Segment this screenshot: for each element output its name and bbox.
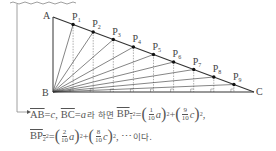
point-dot: [192, 68, 195, 71]
point-dot: [92, 30, 95, 33]
explanation-line-1: AB = c , BC = a 라 하면 BP12 = (110a)2 + (9…: [30, 106, 205, 122]
vertex-label-b: B: [42, 88, 49, 98]
segment-bp: [53, 85, 234, 93]
korean-text: 라 하면: [87, 108, 114, 120]
fraction: 210: [61, 129, 68, 144]
point-label-p6: P6: [173, 49, 182, 60]
fraction: 810: [95, 129, 102, 144]
vertex-label-c: C: [256, 87, 263, 97]
point-label-p1: P1: [72, 12, 81, 23]
point-label-p3: P3: [112, 27, 121, 38]
point-label-p4: P4: [132, 34, 141, 45]
var-a: a: [81, 109, 86, 120]
point-dot: [232, 83, 235, 86]
point-dot: [212, 75, 215, 78]
point-dot: [152, 53, 155, 56]
point-label-p8: P8: [213, 64, 222, 75]
point-dot: [71, 23, 74, 26]
point-label-p9: P9: [233, 72, 242, 83]
leader-line: [17, 4, 27, 112]
segment-bp: [53, 25, 73, 93]
segment-bp2: BP2: [30, 130, 46, 142]
segment-bp: [53, 55, 154, 93]
fraction: 110: [148, 107, 155, 122]
wavy-border: [10, 2, 76, 4]
point-dot: [172, 60, 175, 63]
explanation-line-2: BP22 = (210a)2 + (810c)2, ⋯ 이다.: [30, 128, 152, 144]
point-label-p5: P5: [153, 42, 162, 53]
point-dot: [132, 45, 135, 48]
korean-text: 이다.: [133, 130, 152, 142]
comma: ,: [55, 109, 58, 120]
point-dot: [112, 38, 115, 41]
segment-bp1: BP1: [117, 108, 133, 120]
point-label-p7: P7: [193, 57, 202, 68]
segment-bc: BC: [61, 109, 75, 120]
fraction: 910: [182, 107, 189, 122]
point-label-p2: P2: [92, 19, 101, 30]
segment-ab: AB: [30, 109, 45, 120]
vertex-label-a: A: [43, 11, 50, 21]
